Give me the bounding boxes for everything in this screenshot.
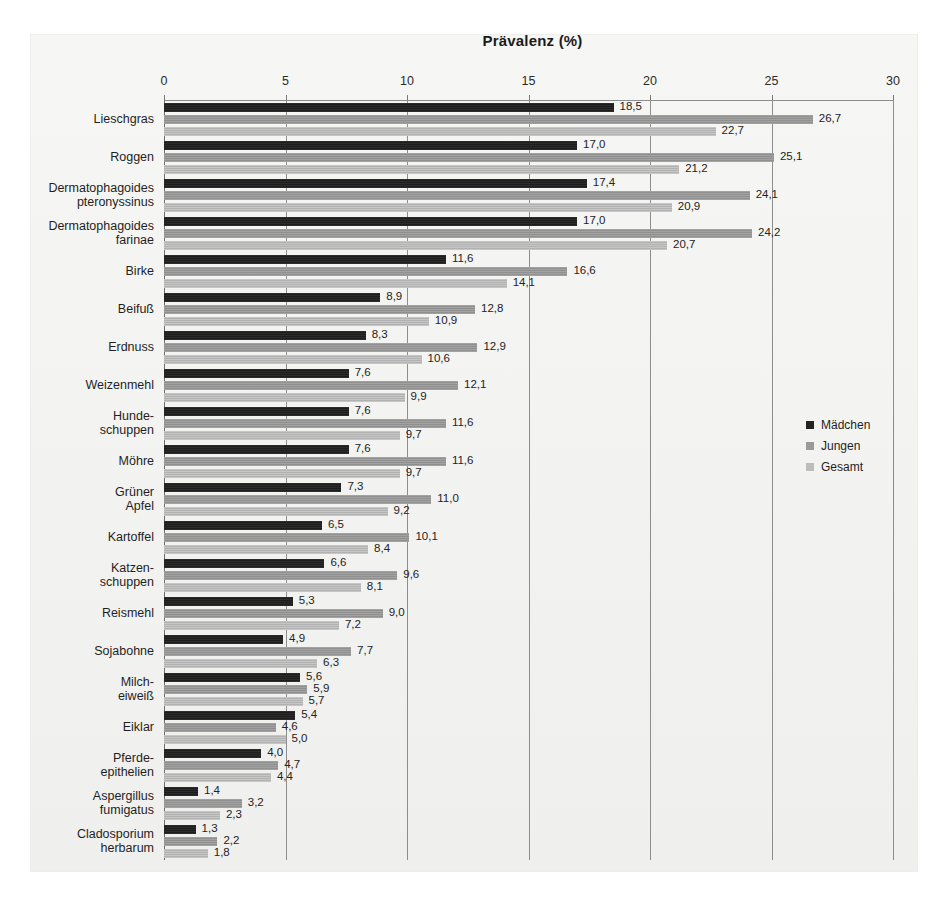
chart-row: Lieschgras18,526,722,7 [164, 100, 893, 138]
x-tick-label: 10 [400, 74, 414, 88]
bar-value-label: 11,6 [452, 253, 474, 264]
chart-row: Sojabohne4,97,76,3 [164, 632, 893, 670]
bar-mädchen [164, 521, 322, 530]
bar-jungen [164, 761, 278, 770]
bar-value-label: 9,6 [403, 569, 419, 580]
bar-value-label: 7,3 [347, 481, 363, 492]
bar-value-label: 11,6 [452, 417, 474, 428]
bar-value-label: 4,9 [289, 633, 305, 644]
bar-gesamt [164, 735, 286, 744]
bar-value-label: 12,8 [481, 303, 503, 314]
category-label: Birke [0, 264, 154, 278]
bar-mädchen [164, 407, 349, 416]
chart-row: Möhre7,611,69,7 [164, 442, 893, 480]
bar-value-label: 10,9 [435, 315, 457, 326]
bar-mädchen [164, 255, 446, 264]
bar-value-label: 5,9 [313, 683, 329, 694]
bar-value-label: 2,2 [223, 835, 239, 846]
bar-gesamt [164, 165, 679, 174]
chart-row: Grüner Apfel7,311,09,2 [164, 480, 893, 518]
legend-swatch-icon [806, 442, 814, 450]
bar-gesamt [164, 355, 422, 364]
bar-gesamt [164, 317, 429, 326]
category-label: Aspergillus fumigatus [0, 789, 154, 817]
bar-jungen [164, 191, 750, 200]
bar-value-label: 18,5 [620, 101, 642, 112]
bar-jungen [164, 305, 475, 314]
x-tick-label: 5 [282, 74, 289, 88]
bar-jungen [164, 153, 774, 162]
bar-gesamt [164, 545, 368, 554]
bar-value-label: 22,7 [722, 125, 744, 136]
category-label: Möhre [0, 454, 154, 468]
bar-jungen [164, 267, 567, 276]
bar-gesamt [164, 279, 507, 288]
bar-jungen [164, 609, 383, 618]
category-label: Dermatophagoides farinae [0, 219, 154, 247]
bar-value-label: 4,7 [284, 759, 300, 770]
category-label: Milch- eiweiß [0, 675, 154, 703]
category-label: Lieschgras [0, 112, 154, 126]
bar-mädchen [164, 141, 577, 150]
bar-jungen [164, 457, 446, 466]
chart-row: Weizenmehl7,612,19,9 [164, 366, 893, 404]
chart-row: Pferde- epithelien4,04,74,4 [164, 746, 893, 784]
category-label: Cladosporium herbarum [0, 827, 154, 855]
bar-jungen [164, 533, 409, 542]
bar-gesamt [164, 127, 716, 136]
chart-row: Eiklar5,44,65,0 [164, 708, 893, 746]
chart-row: Milch- eiweiß5,65,95,7 [164, 670, 893, 708]
category-label: Roggen [0, 150, 154, 164]
bar-jungen [164, 229, 752, 238]
bar-jungen [164, 723, 276, 732]
bar-jungen [164, 381, 458, 390]
chart-row: Dermatophagoides pteronyssinus17,424,120… [164, 176, 893, 214]
category-label: Kartoffel [0, 530, 154, 544]
bar-mädchen [164, 483, 341, 492]
bar-mädchen [164, 825, 196, 834]
bar-gesamt [164, 659, 317, 668]
bar-gesamt [164, 849, 208, 858]
bar-value-label: 5,4 [301, 709, 317, 720]
bar-jungen [164, 799, 242, 808]
bar-value-label: 9,0 [389, 607, 405, 618]
bar-value-label: 8,1 [367, 581, 383, 592]
legend-label: Gesamt [821, 460, 863, 474]
bar-value-label: 6,3 [323, 657, 339, 668]
chart-row: Beifuß8,912,810,9 [164, 290, 893, 328]
bar-gesamt [164, 811, 220, 820]
bar-mädchen [164, 179, 587, 188]
bar-mädchen [164, 711, 295, 720]
bar-gesamt [164, 697, 303, 706]
chart-row: Roggen17,025,121,2 [164, 138, 893, 176]
bar-jungen [164, 571, 397, 580]
bar-mädchen [164, 559, 324, 568]
bar-value-label: 17,0 [583, 215, 605, 226]
legend-item-jungen[interactable]: Jungen [806, 435, 870, 456]
gridline-30 [893, 100, 894, 860]
chart-legend: MädchenJungenGesamt [806, 414, 870, 477]
bar-value-label: 20,9 [678, 201, 700, 212]
legend-label: Mädchen [821, 418, 870, 432]
legend-item-gesamt[interactable]: Gesamt [806, 456, 870, 477]
chart-row: Katzen- schuppen6,69,68,1 [164, 556, 893, 594]
bar-value-label: 10,1 [415, 531, 437, 542]
bar-jungen [164, 343, 477, 352]
legend-item-mädchen[interactable]: Mädchen [806, 414, 870, 435]
category-label: Dermatophagoides pteronyssinus [0, 181, 154, 209]
bar-gesamt [164, 773, 271, 782]
legend-label: Jungen [821, 439, 860, 453]
bar-value-label: 14,1 [513, 277, 535, 288]
bar-value-label: 3,2 [248, 797, 264, 808]
bar-value-label: 8,3 [372, 329, 388, 340]
bar-mädchen [164, 293, 380, 302]
category-label: Hunde- schuppen [0, 409, 154, 437]
bar-gesamt [164, 583, 361, 592]
bar-value-label: 9,9 [411, 391, 427, 402]
bar-value-label: 24,2 [758, 227, 780, 238]
category-label: Sojabohne [0, 644, 154, 658]
chart-row: Hunde- schuppen7,611,69,7 [164, 404, 893, 442]
x-tick-label: 25 [765, 74, 779, 88]
bar-value-label: 5,7 [309, 695, 325, 706]
bar-mädchen [164, 749, 261, 758]
